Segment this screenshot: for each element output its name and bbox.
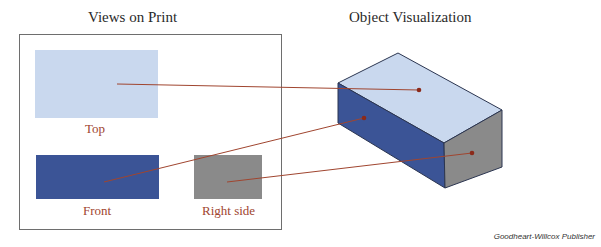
box-illustration xyxy=(0,0,601,247)
publisher-credit: Goodheart-Willcox Publisher xyxy=(494,232,595,241)
